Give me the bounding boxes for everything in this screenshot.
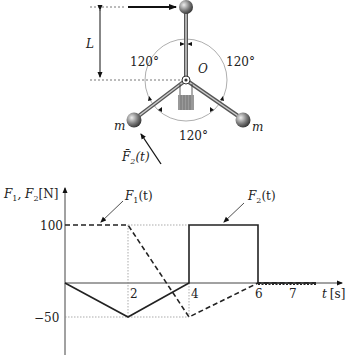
y-tick-neg50: −50 (34, 311, 59, 325)
f2-callout-label: F2(t) (247, 189, 276, 205)
mass-ball-left (127, 113, 142, 128)
angle-label-bottom: 120° (179, 129, 208, 143)
mass-ball-right (236, 113, 251, 128)
x-axis-label: t[s] (322, 287, 345, 301)
x-tick-2: 2 (130, 287, 138, 301)
force-chart: 100 −50 2 4 6 7 t[s] F1, F2[N] F1(t) F2(… (3, 187, 345, 355)
mass-ball-top (179, 0, 193, 14)
figure: L O 120° 120° 120° (0, 0, 351, 357)
guide-lines (65, 225, 189, 317)
mass-label-left: m (114, 119, 125, 133)
force2-label: F̄2(t) (121, 149, 150, 166)
y-axis-label: F1, F2[N] (3, 187, 58, 203)
mechanism: L O 120° 120° 120° (85, 0, 263, 166)
center-label: O (198, 62, 208, 76)
y-tick-100: 100 (40, 219, 63, 233)
mass-label-right: m (252, 120, 263, 134)
f1-callout-arrow-icon (101, 201, 123, 222)
x-tick-6: 6 (255, 287, 263, 301)
f1-callout-label: F1(t) (124, 189, 153, 205)
length-label: L (85, 37, 94, 51)
angle-label-left: 120° (130, 55, 159, 69)
x-tick-4: 4 (191, 287, 199, 301)
f2-callout-arrow-icon (224, 203, 244, 222)
angle-label-right: 120° (226, 55, 255, 69)
x-tick-7: 7 (289, 287, 297, 301)
weight-block (178, 95, 194, 110)
series-f2 (65, 225, 316, 317)
